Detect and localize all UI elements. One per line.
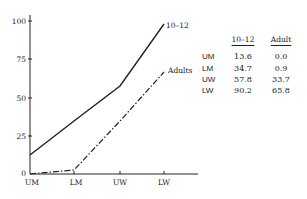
y-tick-label: 100 xyxy=(12,17,27,26)
table-header: 10–12 Adult xyxy=(202,34,300,45)
table-row: UM 13.6 0.0 xyxy=(202,51,300,62)
x-tick-label: LM xyxy=(70,178,83,187)
y-tick-label: 50 xyxy=(16,94,26,103)
row-label: UM xyxy=(202,51,224,62)
data-table: 10–12 Adult UM 13.6 0.0 LM 34.7 0.9 UW 5… xyxy=(202,34,300,96)
table-row: LM 34.7 0.9 xyxy=(202,63,300,74)
table-row: UW 57.8 33.7 xyxy=(202,74,300,85)
cell: 90.2 xyxy=(224,85,262,96)
series-label-10-12: 10–12 xyxy=(166,21,189,30)
x-tick-label: UM xyxy=(25,178,39,187)
y-tick-label: 25 xyxy=(16,132,26,141)
cell: 34.7 xyxy=(224,63,262,74)
x-tick-label: UW xyxy=(113,178,127,187)
series-10-12-line xyxy=(30,24,164,155)
cell: 0.0 xyxy=(262,51,300,62)
series-adults-line xyxy=(30,72,164,174)
series-label-adults: Adults xyxy=(167,66,192,75)
cell: 0.9 xyxy=(262,63,300,74)
cell: 13.6 xyxy=(224,51,262,62)
table-row: LW 90.2 65.8 xyxy=(202,85,300,96)
y-tick-label: 0 xyxy=(21,169,26,178)
line-chart: 100 75 50 25 0 UM LM UW LW 10–12 Adults xyxy=(0,0,307,199)
row-label: LM xyxy=(202,63,224,74)
row-label: LW xyxy=(202,85,224,96)
cell: 33.7 xyxy=(262,74,300,85)
column-header: Adult xyxy=(262,34,300,45)
column-header: 10–12 xyxy=(224,34,262,45)
y-tick-label: 75 xyxy=(16,55,26,64)
cell: 57.8 xyxy=(224,74,262,85)
row-label: UW xyxy=(202,74,224,85)
cell: 65.8 xyxy=(262,85,300,96)
x-tick-label: LW xyxy=(158,178,170,187)
